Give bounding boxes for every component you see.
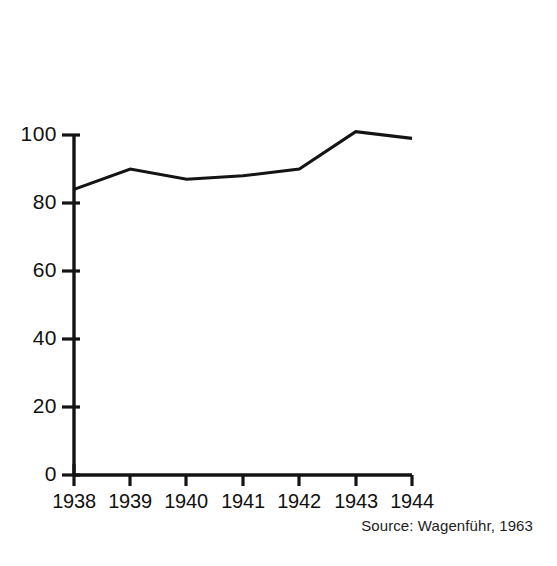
y-tick-label-80: 80	[0, 190, 57, 214]
y-axis-ticks	[62, 135, 80, 475]
y-tick-label-60: 60	[0, 258, 57, 282]
data-line-series	[74, 132, 412, 190]
y-tick-label-20: 20	[0, 394, 57, 418]
y-tick-label-40: 40	[0, 326, 57, 350]
chart-figure: 100 80 60 40 20 0 1938 1939 1940 1941 19…	[0, 0, 557, 566]
y-tick-label-100: 100	[0, 122, 57, 146]
y-tick-label-0: 0	[0, 462, 57, 486]
x-tick-label-1944: 1944	[374, 490, 450, 513]
source-note: Source: Wagenführ, 1963	[361, 517, 533, 534]
chart-canvas	[0, 0, 557, 566]
